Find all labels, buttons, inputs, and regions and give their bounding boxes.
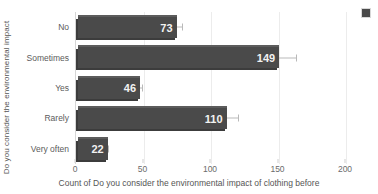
bar-row[interactable]: Very often22: [76, 134, 346, 164]
bar-row[interactable]: No73: [76, 12, 346, 42]
x-tick-label: 150: [270, 164, 284, 174]
bar-value-label: 46: [124, 82, 136, 94]
plot-area: No73Sometimes149Yes46Rarely110Very often…: [75, 12, 346, 164]
x-tick-label: 100: [203, 164, 217, 174]
bar-top-face: [78, 76, 140, 78]
bar[interactable]: 46: [76, 78, 138, 99]
bar-fill: 149: [78, 47, 279, 68]
y-axis-title: Do you consider the environmental impact: [0, 0, 14, 194]
category-label: Very often: [31, 144, 69, 154]
chart-title-cropped: [130, 0, 280, 2]
bar-value-label: 149: [257, 52, 275, 64]
bar-chart: Do you consider the environmental impact…: [0, 0, 378, 194]
x-tick-label: 50: [138, 164, 147, 174]
bar-fill: 22: [78, 139, 108, 160]
bar-value-label: 22: [91, 143, 103, 155]
bar-fill: 110: [78, 108, 227, 129]
x-tick-label: 0: [73, 164, 78, 174]
bar-top-face: [78, 45, 279, 47]
x-tick-mark: [75, 159, 76, 163]
bar-row[interactable]: Rarely110: [76, 103, 346, 133]
x-tick-mark: [210, 159, 211, 163]
bar-fill: 46: [78, 78, 140, 99]
gridline: [346, 12, 347, 164]
bar[interactable]: 73: [76, 17, 175, 38]
category-label: Sometimes: [26, 53, 69, 63]
bar-row[interactable]: Sometimes149: [76, 42, 346, 72]
bar-fill: 73: [78, 17, 177, 38]
category-label: No: [58, 22, 69, 32]
legend-swatch-icon[interactable]: [361, 8, 371, 18]
x-tick-mark: [345, 159, 346, 163]
x-tick-mark: [142, 159, 143, 163]
bar[interactable]: 149: [76, 47, 277, 68]
bar-value-label: 73: [160, 22, 172, 34]
x-tick-mark: [277, 159, 278, 163]
bar-top-face: [78, 106, 227, 108]
x-axis-title: Count of Do you consider the environment…: [0, 178, 378, 188]
bar-row[interactable]: Yes46: [76, 73, 346, 103]
bar-value-label: 110: [205, 113, 223, 125]
x-axis: 050100150200: [75, 164, 345, 178]
y-axis-title-label: Do you consider the environmental impact: [3, 20, 12, 173]
x-tick-label: 200: [338, 164, 352, 174]
bar-top-face: [78, 15, 177, 17]
category-label: Yes: [55, 83, 69, 93]
bar[interactable]: 22: [76, 139, 106, 160]
bar-top-face: [78, 137, 108, 139]
bar[interactable]: 110: [76, 108, 225, 129]
category-label: Rarely: [44, 113, 69, 123]
